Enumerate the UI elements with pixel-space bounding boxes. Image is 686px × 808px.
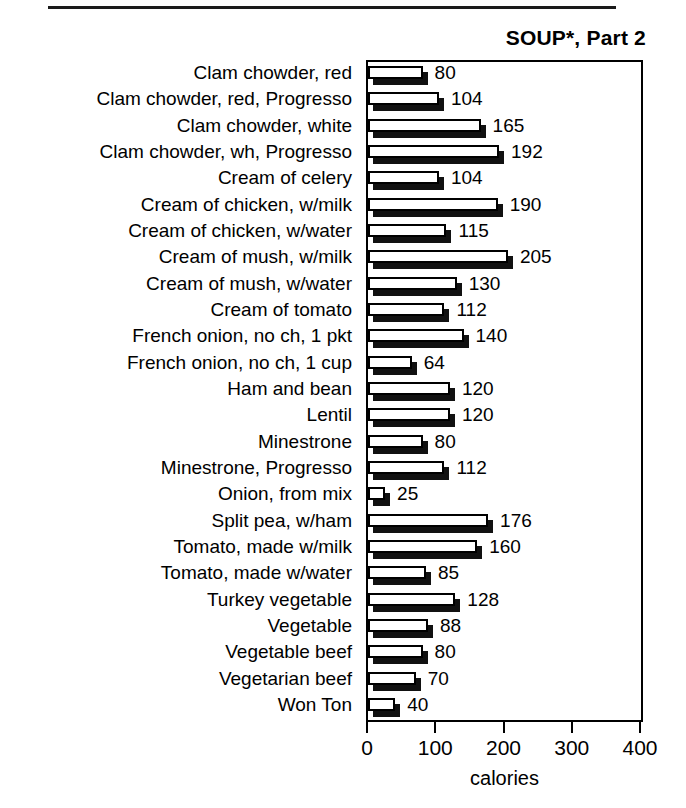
bar-face[interactable] <box>368 92 439 105</box>
bar-row: 64 <box>368 355 641 376</box>
bar-value-label: 80 <box>435 642 456 661</box>
bar-face[interactable] <box>368 540 477 553</box>
bar-row: 205 <box>368 249 641 270</box>
category-label: Tomato, made w/water <box>161 563 352 582</box>
bar-face[interactable] <box>368 698 395 711</box>
category-label: Clam chowder, wh, Progresso <box>100 142 352 161</box>
bar-face[interactable] <box>368 119 481 132</box>
bar-value-label: 80 <box>435 63 456 82</box>
bar-value-label: 130 <box>469 274 501 293</box>
bar-value-label: 85 <box>438 563 459 582</box>
bar-face[interactable] <box>368 461 444 474</box>
bar-value-label: 112 <box>456 458 486 477</box>
bar-value-label: 205 <box>520 247 552 266</box>
bar-face[interactable] <box>368 566 426 579</box>
category-label: Lentil <box>307 405 352 424</box>
bar-value-label: 128 <box>467 590 499 609</box>
bar-face[interactable] <box>368 303 444 316</box>
bar-row: 104 <box>368 91 641 112</box>
x-axis-tick <box>503 722 505 733</box>
bar-face[interactable] <box>368 198 498 211</box>
bar-face[interactable] <box>368 66 423 79</box>
category-label: Cream of mush, w/water <box>146 274 352 293</box>
bar-face[interactable] <box>368 171 439 184</box>
category-label: Won Ton <box>278 695 352 714</box>
bar-value-label: 165 <box>493 116 525 135</box>
bar-value-label: 40 <box>407 695 428 714</box>
bar-value-label: 120 <box>462 379 494 398</box>
bar-row: 190 <box>368 197 641 218</box>
bar-value-label: 112 <box>456 300 486 319</box>
bar-value-label: 104 <box>451 89 483 108</box>
bar-value-label: 80 <box>435 432 456 451</box>
bar-value-label: 160 <box>489 537 521 556</box>
category-label: Vegetarian beef <box>219 669 352 688</box>
bar-row: 80 <box>368 65 641 86</box>
bar-face[interactable] <box>368 145 499 158</box>
bar-face[interactable] <box>368 408 450 421</box>
bar-value-label: 140 <box>476 326 508 345</box>
bar-value-label: 190 <box>510 195 542 214</box>
bar-face[interactable] <box>368 487 385 500</box>
category-label: Cream of chicken, w/water <box>128 221 352 240</box>
bar-row: 128 <box>368 592 641 613</box>
category-label: Cream of chicken, w/milk <box>141 195 352 214</box>
category-label: Onion, from mix <box>218 484 352 503</box>
bar-row: 120 <box>368 381 641 402</box>
bar-row: 130 <box>368 276 641 297</box>
bar-face[interactable] <box>368 329 464 342</box>
bar-face[interactable] <box>368 277 457 290</box>
x-axis-tick <box>639 722 641 733</box>
bar-face[interactable] <box>368 250 508 263</box>
bar-row: 80 <box>368 644 641 665</box>
category-label: Vegetable <box>267 616 352 635</box>
bar-row: 88 <box>368 618 641 639</box>
bar-row: 120 <box>368 407 641 428</box>
bar-face[interactable] <box>368 435 423 448</box>
x-axis-tick-label: 0 <box>361 737 373 758</box>
bar-row: 112 <box>368 460 641 481</box>
bar-row: 140 <box>368 328 641 349</box>
bar-value-label: 115 <box>458 221 488 240</box>
bar-row: 160 <box>368 539 641 560</box>
category-label: Clam chowder, red <box>194 63 352 82</box>
x-axis-tick <box>366 722 368 733</box>
x-axis-tick-label: 100 <box>418 737 453 758</box>
category-label: Cream of celery <box>218 168 352 187</box>
bar-row: 70 <box>368 671 641 692</box>
category-label: Minestrone, Progresso <box>161 458 352 477</box>
bar-face[interactable] <box>368 619 428 632</box>
bar-series: 8010416519210419011520513011214064120120… <box>368 62 641 720</box>
chart-title: SOUP*, Part 2 <box>506 26 646 50</box>
bar-row: 192 <box>368 144 641 165</box>
bar-row: 104 <box>368 170 641 191</box>
category-label: Clam chowder, red, Progresso <box>96 89 352 108</box>
bar-row: 40 <box>368 697 641 718</box>
bar-value-label: 70 <box>428 669 449 688</box>
category-axis-labels: Clam chowder, redClam chowder, red, Prog… <box>0 60 360 722</box>
x-axis-tick-label: 200 <box>486 737 521 758</box>
category-label: Split pea, w/ham <box>212 511 352 530</box>
category-label: Ham and bean <box>227 379 352 398</box>
category-label: Tomato, made w/milk <box>174 537 352 556</box>
bar-row: 176 <box>368 513 641 534</box>
bar-value-label: 88 <box>440 616 461 635</box>
bar-value-label: 64 <box>424 353 445 372</box>
bar-face[interactable] <box>368 382 450 395</box>
category-label: Turkey vegetable <box>207 590 352 609</box>
x-axis-title: calories <box>366 768 643 788</box>
category-label: Cream of tomato <box>211 300 353 319</box>
x-axis-tick <box>434 722 436 733</box>
bar-face[interactable] <box>368 593 455 606</box>
bar-face[interactable] <box>368 514 488 527</box>
bar-face[interactable] <box>368 224 446 237</box>
category-label: Vegetable beef <box>225 642 352 661</box>
bar-face[interactable] <box>368 645 423 658</box>
category-label: French onion, no ch, 1 pkt <box>132 326 352 345</box>
bar-face[interactable] <box>368 672 416 685</box>
bar-row: 85 <box>368 565 641 586</box>
bar-face[interactable] <box>368 356 412 369</box>
category-label: French onion, no ch, 1 cup <box>127 353 352 372</box>
bar-value-label: 176 <box>500 511 532 530</box>
x-axis-tick-label: 300 <box>554 737 589 758</box>
